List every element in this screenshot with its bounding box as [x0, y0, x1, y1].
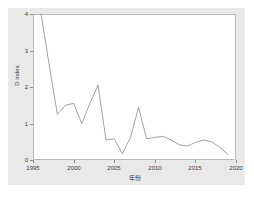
y-axis-title: D index: [14, 53, 21, 99]
x-tick-label-2010: 2010: [142, 165, 168, 172]
x-tick-label-2015: 2015: [182, 165, 208, 172]
x-tick-label-2020: 2020: [223, 165, 249, 172]
x-tick-label-1995: 1995: [20, 165, 46, 172]
y-tick-label-4: 4: [16, 11, 28, 18]
chart-figure: 0 1 2 3 4 1995 2000 2005 2010 2015 2020 …: [0, 0, 254, 197]
x-axis-title: 年份: [33, 175, 236, 182]
x-tick-label-2000: 2000: [61, 165, 87, 172]
x-tick-mark-2020: [236, 160, 237, 163]
x-tick-label-2005: 2005: [101, 165, 127, 172]
x-tick-mark-2015: [195, 160, 196, 163]
x-tick-mark-2000: [74, 160, 75, 163]
x-tick-mark-1995: [33, 160, 34, 163]
y-tick-label-0: 0: [16, 157, 28, 164]
x-tick-mark-2005: [114, 160, 115, 163]
series-plot: [33, 14, 236, 160]
x-tick-mark-2010: [155, 160, 156, 163]
y-tick-label-1: 1: [16, 121, 28, 128]
series-line-d-index: [41, 14, 228, 155]
